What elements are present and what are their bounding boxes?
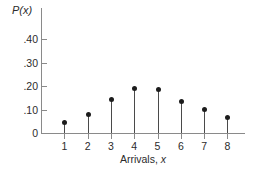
- data-stem: [204, 109, 205, 133]
- x-axis-tick-label: 1: [55, 140, 73, 152]
- x-axis-tick-label: 2: [79, 140, 97, 152]
- x-axis-tick: [88, 134, 89, 139]
- data-point-marker: [225, 115, 230, 120]
- y-axis-tick-label-text: .20: [4, 80, 38, 92]
- y-axis-tick-label-text: 0: [4, 127, 38, 139]
- y-axis-tick-label: .40: [0, 33, 38, 45]
- x-axis-tick: [158, 134, 159, 139]
- x-axis-tick: [181, 134, 182, 139]
- y-axis-tick: [42, 39, 47, 40]
- x-axis-tick-label: 8: [218, 140, 236, 152]
- y-axis-tick-label-text: .10: [4, 104, 38, 116]
- x-axis-title: Arrivals, x: [41, 153, 245, 165]
- y-axis-title: P(x): [12, 4, 32, 16]
- data-stem: [181, 101, 182, 133]
- data-stem: [158, 89, 159, 133]
- x-axis-tick: [204, 134, 205, 139]
- x-axis-tick-label: 3: [102, 140, 120, 152]
- y-axis-tick-label: .20: [0, 80, 38, 92]
- y-axis-tick-label: .10: [0, 104, 38, 116]
- x-axis-title-text: Arrivals,: [120, 153, 158, 165]
- data-stem: [111, 99, 112, 133]
- probability-distribution-chart: P(x) 0.10.20.30.40 12345678 Arrivals, x: [0, 0, 271, 172]
- x-axis-tick-label: 7: [195, 140, 213, 152]
- data-point-marker: [156, 87, 161, 92]
- y-axis-line: [41, 8, 42, 134]
- x-axis-tick-label: 6: [172, 140, 190, 152]
- data-point-marker: [86, 112, 91, 117]
- x-axis-tick-label: 4: [125, 140, 143, 152]
- data-point-marker: [62, 120, 67, 125]
- y-axis-tick-label-text: .30: [4, 57, 38, 69]
- x-axis-tick: [134, 134, 135, 139]
- data-point-marker: [109, 97, 114, 102]
- y-axis-tick-label-text: .40: [4, 33, 38, 45]
- y-axis-tick-label: 0: [0, 127, 38, 139]
- x-axis-line: [41, 133, 245, 134]
- y-axis-tick: [42, 110, 47, 111]
- data-stem: [134, 88, 135, 133]
- x-axis-tick-label: 5: [149, 140, 167, 152]
- x-axis-tick: [227, 134, 228, 139]
- data-point-marker: [202, 107, 207, 112]
- y-axis-tick: [42, 86, 47, 87]
- x-axis-title-variable: x: [161, 153, 166, 165]
- x-axis-tick: [111, 134, 112, 139]
- y-axis-tick-label: .30: [0, 57, 38, 69]
- y-axis-tick: [42, 63, 47, 64]
- data-point-marker: [132, 86, 137, 91]
- data-point-marker: [179, 99, 184, 104]
- x-axis-tick: [64, 134, 65, 139]
